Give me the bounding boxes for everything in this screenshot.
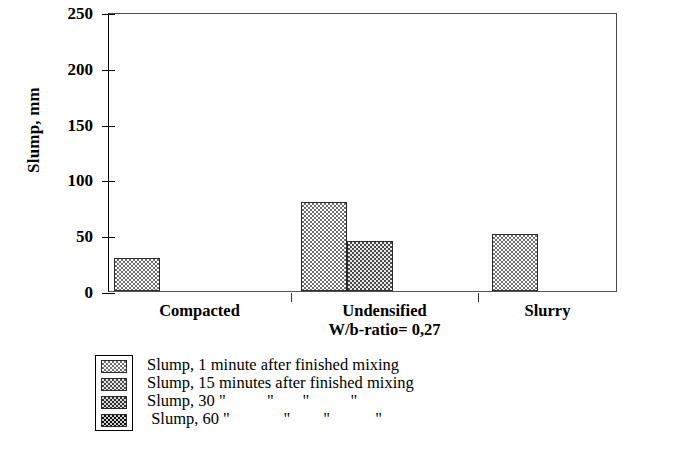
legend-swatch-series3	[101, 396, 127, 409]
bar-compacted-series1	[114, 258, 160, 292]
y-tick-label-250: 250	[68, 4, 94, 24]
bar-slurry-series1	[492, 234, 538, 291]
y-tick-50: 50	[102, 237, 115, 238]
y-tick-100: 100	[102, 181, 115, 182]
y-tick-250: 250	[102, 14, 115, 15]
legend-label-series4: Slump, 60 " " " "	[147, 410, 414, 428]
legend-label-series1: Slump, 1 minute after finished mixing	[147, 356, 414, 374]
legend-swatch-series2	[101, 378, 127, 391]
y-tick-label-50: 50	[76, 227, 93, 247]
y-tick-200: 200	[102, 70, 115, 71]
plot-inner: 0 50 100 150 200 250	[109, 14, 616, 291]
legend-swatch-series1	[101, 360, 127, 373]
category-sublabel-wb-ratio: W/b-ratio= 0,27	[291, 320, 478, 340]
legend-swatch-box	[95, 355, 133, 431]
y-axis-title: Slump, mm	[24, 50, 44, 210]
y-tick-label-150: 150	[68, 116, 94, 136]
legend-labels: Slump, 1 minute after finished mixing Sl…	[133, 355, 414, 431]
y-tick-150: 150	[102, 126, 115, 127]
legend-swatch-series4	[101, 414, 127, 427]
bar-chart-figure: Slump, mm 0 50 100 150 200 250	[0, 0, 692, 461]
legend: Slump, 1 minute after finished mixing Sl…	[95, 355, 414, 431]
bar-undensified-series2	[347, 241, 393, 291]
plot-area: 0 50 100 150 200 250	[108, 13, 617, 292]
category-label-undensified: Undensified	[291, 301, 478, 321]
legend-label-series2: Slump, 15 minutes after finished mixing	[147, 374, 414, 392]
category-label-compacted: Compacted	[108, 301, 291, 321]
legend-label-series3: Slump, 30 " " " "	[147, 392, 414, 410]
bar-undensified-series1	[301, 202, 347, 291]
y-tick-label-200: 200	[68, 60, 94, 80]
y-tick-0: 0	[102, 293, 115, 294]
y-tick-label-0: 0	[85, 283, 94, 303]
y-tick-label-100: 100	[68, 171, 94, 191]
category-label-slurry: Slurry	[478, 301, 617, 321]
